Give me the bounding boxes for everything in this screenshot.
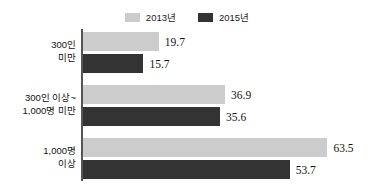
bar-row-3-2015: 53.7 xyxy=(83,160,373,179)
plot-area: 300인 미만 19.7 15.7 300인 이상~ 1,000명 미만 36.… xyxy=(0,29,374,182)
category-label-2-line-2: 1,000명 미만 xyxy=(0,105,76,118)
chart-legend: 2013년 2015년 xyxy=(0,10,374,24)
bar-group-3: 1,000명 이상 63.5 53.7 xyxy=(0,135,374,182)
bar-row-1-2015: 15.7 xyxy=(83,54,373,73)
legend-swatch-2013-icon xyxy=(125,13,140,22)
category-label-1: 300인 미만 xyxy=(0,39,76,64)
bar-group-2: 300인 이상~ 1,000명 미만 36.9 35.6 xyxy=(0,82,374,129)
category-label-3: 1,000명 이상 xyxy=(0,145,76,170)
bar-2015-category-2 xyxy=(83,107,220,126)
bar-row-3-2013: 63.5 xyxy=(83,138,373,157)
bar-row-2-2013: 36.9 xyxy=(83,85,373,104)
bar-group-1: 300인 미만 19.7 15.7 xyxy=(0,29,374,76)
legend-label-2013: 2013년 xyxy=(146,10,176,24)
bar-value-2013-category-1: 19.7 xyxy=(159,36,185,48)
category-label-2-line-1: 300인 이상~ xyxy=(0,92,76,105)
category-label-1-line-2: 미만 xyxy=(0,52,76,65)
bar-value-2015-category-1: 15.7 xyxy=(143,58,169,70)
bar-row-1-2013: 19.7 xyxy=(83,32,373,51)
legend-entry-2013: 2013년 xyxy=(125,10,176,24)
legend-swatch-2015-icon xyxy=(198,13,213,22)
legend-label-2015: 2015년 xyxy=(219,10,249,24)
bar-2013-category-2 xyxy=(83,85,225,104)
bar-2013-category-1 xyxy=(83,32,159,51)
bar-value-2013-category-3: 63.5 xyxy=(327,142,353,154)
category-label-1-line-1: 300인 xyxy=(0,39,76,52)
category-label-3-line-1: 1,000명 xyxy=(0,145,76,158)
category-label-3-line-2: 이상 xyxy=(0,158,76,171)
bar-value-2013-category-2: 36.9 xyxy=(225,89,251,101)
bar-value-2015-category-3: 53.7 xyxy=(290,164,316,176)
bar-row-2-2015: 35.6 xyxy=(83,107,373,126)
legend-entry-2015: 2015년 xyxy=(198,10,249,24)
bar-2013-category-3 xyxy=(83,138,327,157)
bar-chart: 2013년 2015년 300인 미만 19.7 15.7 xyxy=(0,0,374,191)
bar-2015-category-1 xyxy=(83,54,143,73)
category-label-2: 300인 이상~ 1,000명 미만 xyxy=(0,92,76,117)
bar-2015-category-3 xyxy=(83,160,290,179)
bar-value-2015-category-2: 35.6 xyxy=(220,111,246,123)
